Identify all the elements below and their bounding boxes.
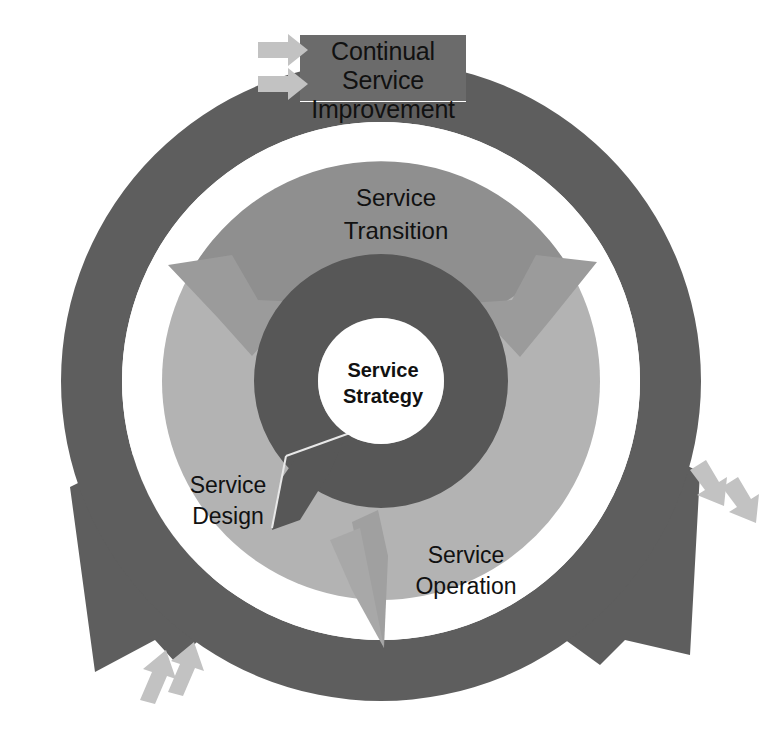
service-design-label-line2: Design: [192, 503, 264, 529]
feeder-arrows-right: [690, 460, 759, 523]
service-transition-label-line2: Transition: [344, 217, 448, 244]
service-strategy-core-group[interactable]: Service Strategy: [318, 318, 444, 444]
service-strategy-label-line1: Service: [347, 359, 418, 381]
feeder-arrow-right-2: [722, 477, 759, 523]
service-strategy-label-line2: Strategy: [343, 385, 424, 407]
feeder-arrow-bottom-1: [140, 650, 176, 704]
csi-label-line1: Continual: [331, 37, 435, 65]
service-transition-label-line1: Service: [356, 184, 436, 211]
itil-lifecycle-diagram: Continual Service Improvement Service Tr…: [0, 0, 772, 750]
csi-label-line3: Improvement: [311, 95, 455, 123]
csi-label-line2: Service: [342, 66, 424, 94]
service-design-label-line1: Service: [190, 472, 267, 498]
service-operation-label-line1: Service: [428, 542, 505, 568]
service-operation-label-line2: Operation: [415, 573, 516, 599]
lifecycle-svg-canvas: Continual Service Improvement Service Tr…: [0, 0, 772, 750]
